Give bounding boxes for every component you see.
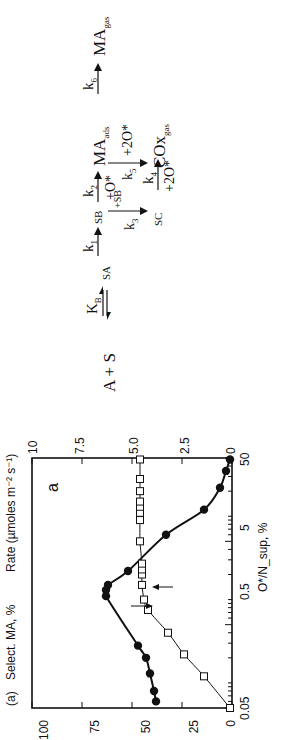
y-right-tick: 7.5 [73, 437, 87, 454]
species-sc: SC [152, 213, 164, 226]
open-square-marker [137, 538, 144, 545]
species-sb: SB [92, 211, 104, 224]
filled-circle-marker [226, 455, 234, 463]
x-tick: 5 [238, 524, 252, 531]
filled-circle-marker [216, 484, 224, 492]
y-left-tick: 75 [88, 720, 102, 740]
step-k3-reagent: +SB [112, 190, 123, 208]
open-square-marker [141, 596, 148, 603]
y-right-tick: 10 [26, 441, 40, 454]
open-square-marker [181, 651, 188, 658]
y-left-tick: 100 [37, 720, 51, 740]
right-axis-arrow [152, 584, 173, 590]
open-square-marker [137, 498, 144, 505]
y-left-tick: 50 [139, 720, 153, 740]
filled-circle-marker [104, 581, 112, 589]
species-start: A + S [100, 353, 120, 392]
filled-circle-marker [162, 531, 170, 539]
series-lines [104, 459, 230, 708]
open-square-marker [165, 629, 172, 636]
open-square-marker [227, 705, 234, 712]
filled-circle-marker [150, 687, 158, 695]
species-ma-gas: MAgas [90, 17, 111, 56]
species-cox: COxgas [150, 124, 171, 168]
series-line-1 [140, 459, 230, 708]
filled-circle-marker [146, 669, 154, 677]
y-axis-ticks [32, 458, 232, 708]
step-k3-label: k3 [122, 219, 140, 231]
step-k4-label: k4 [140, 172, 159, 184]
step-k5-label: k5 [120, 169, 138, 181]
x-axis-ticks [225, 458, 232, 708]
x-axis-title: O*/N_sup, % [256, 523, 270, 592]
open-square-marker [201, 673, 208, 680]
step-k6-label: k6 [80, 78, 99, 90]
step-kb-label: KB [84, 297, 103, 314]
x-tick: 50 [238, 453, 252, 466]
step-k2-label: k2 [80, 185, 99, 197]
y-right-tick: 0 [224, 447, 238, 454]
panel-label: (a) [4, 691, 18, 706]
x-tick: 0.05 [238, 697, 252, 720]
left-axis-title: Select. MA, % [4, 605, 18, 680]
filled-circle-marker [134, 641, 142, 649]
filled-circle-marker [222, 467, 230, 475]
filled-circle-marker [124, 567, 132, 575]
open-square-marker [137, 475, 144, 482]
right-axis-title: Rate (µmoles m⁻² s⁻¹) [4, 454, 18, 572]
filled-circle-marker [142, 654, 150, 662]
species-ma-ads: MAads [90, 127, 111, 166]
y-right-tick: 5.0 [127, 437, 141, 454]
species-sa: SA [100, 266, 112, 280]
open-square-marker [139, 560, 146, 567]
step-k5-reagent: +2O* [120, 124, 136, 156]
series-line-0 [104, 459, 230, 701]
series-markers [102, 455, 234, 711]
y-left-tick: 25 [187, 720, 201, 740]
filled-circle-marker [200, 505, 208, 513]
filled-circle-marker [152, 697, 160, 705]
plot-frame [32, 458, 232, 708]
y-right-tick: 2.5 [178, 437, 192, 454]
open-square-marker [137, 517, 144, 524]
x-tick: 0.5 [238, 583, 252, 600]
panel-letter: a [44, 483, 62, 492]
open-square-marker [139, 581, 146, 588]
step-k1-label: k1 [80, 240, 99, 252]
open-square-marker [137, 488, 144, 495]
y-left-tick: 0 [224, 720, 238, 740]
open-square-marker [137, 456, 144, 463]
